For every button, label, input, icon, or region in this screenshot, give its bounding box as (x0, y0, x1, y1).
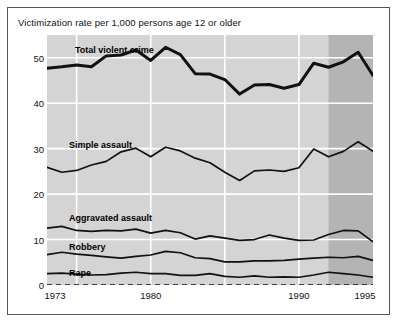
series-label-robbery: Robbery (69, 242, 106, 252)
series-label-total-violent-crime: Total violent crime (75, 45, 154, 55)
y-tick-label-30: 30 (22, 143, 44, 154)
plot-area: Total violent crime Simple assault Aggra… (47, 35, 373, 285)
y-tick-label-0: 0 (22, 280, 44, 291)
y-tick-label-50: 50 (22, 52, 44, 63)
x-tick-label-1980: 1980 (140, 290, 161, 301)
y-tick-label-20: 20 (22, 189, 44, 200)
x-tick-label-1995: 1995 (354, 290, 375, 301)
x-tick-label-1990: 1990 (288, 290, 309, 301)
x-tick-label-1973: 1973 (44, 290, 65, 301)
y-tick-label-40: 40 (22, 98, 44, 109)
y-axis-tick-labels: 01020304050 (18, 35, 44, 285)
plot-background-highlight (329, 35, 373, 285)
x-axis-tick-labels: 1973198019901995 (47, 290, 373, 308)
figure-container: Victimization rate per 1,000 persons age… (0, 0, 400, 324)
series-label-simple-assault: Simple assault (69, 140, 132, 150)
y-tick-label-10: 10 (22, 234, 44, 245)
series-label-aggravated-assault: Aggravated assault (69, 213, 152, 223)
chart-title: Victimization rate per 1,000 persons age… (18, 17, 241, 28)
series-label-rape: Rape (69, 268, 91, 278)
